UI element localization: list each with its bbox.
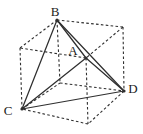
vertex-dot-d [122,89,125,92]
cube-edge-tr-a [86,27,123,58]
cube-tetrahedron-svg: B A C D [0,0,143,134]
geometry-figure: B A C D [0,0,143,134]
cube-edge-a-ua [86,58,88,124]
cube-edge-b-tr [57,20,123,27]
cube-edge-tr-d [123,27,124,91]
cube-edge-ua-c [22,109,88,124]
cube-edge-tl-c [20,48,22,109]
vertex-dot-c [20,107,23,110]
vertex-dot-a [84,56,87,59]
cube-edge-ub-d [60,83,124,91]
tetra-edge-b-d [57,20,124,91]
tetra-edge-a-d [86,58,124,91]
tetrahedron-solid-edges [22,20,124,109]
vertex-dots [20,18,125,110]
cube-edge-b-ub [57,20,60,83]
vertex-label-c: C [4,103,13,118]
vertex-label-d: D [128,81,137,96]
vertex-label-a: A [68,43,78,58]
vertex-label-b: B [51,4,60,19]
tetra-edge-c-d [22,91,124,109]
